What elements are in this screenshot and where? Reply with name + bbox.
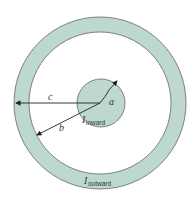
- label-b: b: [59, 122, 64, 133]
- inner-current-subscript: inward: [86, 119, 106, 126]
- diagram-svg: c b a I inward I outward: [0, 0, 196, 200]
- outer-current-subscript: outward: [88, 180, 112, 187]
- label-a: a: [109, 96, 114, 107]
- label-c: c: [48, 91, 53, 102]
- coax-diagram: c b a I inward I outward: [0, 0, 196, 200]
